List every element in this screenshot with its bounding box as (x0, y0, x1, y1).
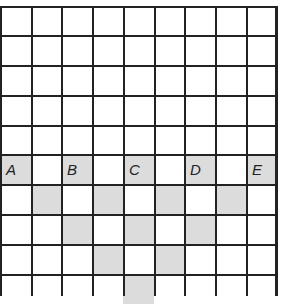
grid-line-vertical (154, 6, 156, 296)
shaded-cell (31, 184, 61, 214)
grid-line-horizontal (0, 125, 277, 127)
grid-line-vertical (61, 6, 63, 296)
shaded-cell (123, 214, 154, 244)
grid-line-horizontal (0, 6, 277, 8)
cell-label-d: D (190, 162, 201, 177)
shaded-cell (92, 244, 123, 274)
grid-line-horizontal (0, 184, 277, 186)
grid-line-horizontal (0, 214, 277, 216)
grid-line-horizontal (0, 274, 277, 276)
grid-line-horizontal (0, 95, 277, 97)
cell-label-b: B (67, 162, 77, 177)
shaded-cell (215, 184, 246, 214)
cell-label-c: C (129, 162, 140, 177)
cell-label-a: A (6, 162, 16, 177)
shaded-cell (92, 184, 123, 214)
grid-line-vertical (246, 6, 248, 296)
grid-line-vertical (275, 6, 278, 296)
shaded-cell (61, 214, 92, 244)
grid-line-horizontal (0, 154, 277, 156)
shaded-cell (184, 214, 215, 244)
cell-label-e: E (252, 162, 262, 177)
grid-line-vertical (184, 6, 186, 296)
shaded-cell (123, 274, 154, 304)
shaded-cell (154, 184, 184, 214)
grid-line-vertical (123, 6, 125, 296)
grid-line-vertical (92, 6, 94, 296)
grid-line-vertical (0, 6, 2, 296)
grid-line-horizontal (0, 65, 277, 67)
grid-line-vertical (215, 6, 217, 296)
shaded-cell (154, 244, 184, 274)
grid-line-horizontal (0, 35, 277, 37)
grid-line-vertical (31, 6, 33, 296)
grid-line-horizontal (0, 244, 277, 246)
